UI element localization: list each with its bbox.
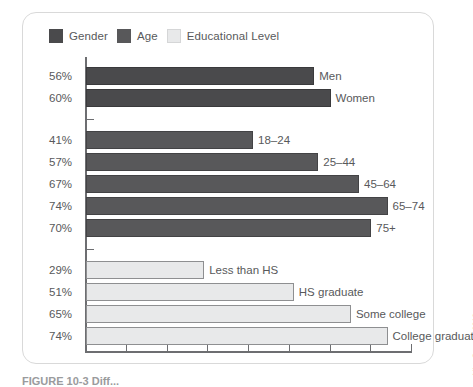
bar-value-label: 56% bbox=[49, 69, 81, 83]
bar-value-label: 41% bbox=[49, 133, 81, 147]
x-axis-tick bbox=[207, 344, 208, 353]
bar-value-label: 67% bbox=[49, 177, 81, 191]
bar-value-label: 60% bbox=[49, 91, 81, 105]
bar-category-label: 65–74 bbox=[393, 199, 425, 213]
bar-value-label: 74% bbox=[49, 329, 81, 343]
x-axis-tick bbox=[330, 344, 331, 353]
group-separator-tick bbox=[85, 249, 94, 250]
legend-label: Gender bbox=[69, 30, 108, 42]
bar-row: 74%College graduate bbox=[49, 327, 429, 345]
bar-row: 74%65–74 bbox=[49, 197, 429, 215]
bar-value-label: 29% bbox=[49, 263, 81, 277]
bar-category-label: Less than HS bbox=[209, 263, 278, 277]
legend-entry: Educational Level bbox=[167, 29, 280, 43]
x-axis-tick bbox=[85, 344, 86, 353]
bar-category-label: 25–44 bbox=[323, 155, 355, 169]
x-axis-tick bbox=[411, 344, 412, 353]
bar bbox=[86, 261, 204, 279]
legend-swatch-education bbox=[167, 29, 181, 43]
chart-plot-area: 56%Men60%Women41%18–2457%25–4467%45–6474… bbox=[49, 57, 429, 353]
bar-value-label: 51% bbox=[49, 285, 81, 299]
group-separator-tick bbox=[85, 119, 94, 120]
chart-legend: GenderAgeEducational Level bbox=[49, 29, 279, 43]
bar-category-label: College graduate bbox=[393, 329, 473, 343]
x-axis-tick bbox=[248, 344, 249, 353]
bar bbox=[86, 131, 253, 149]
legend-label: Age bbox=[137, 30, 158, 42]
legend-entry: Age bbox=[117, 29, 158, 43]
bar-category-label: 45–64 bbox=[364, 177, 396, 191]
bar-category-label: 75+ bbox=[376, 221, 396, 235]
figure-caption: FIGURE 10-3 Diff... bbox=[22, 375, 119, 387]
bar-row: 29%Less than HS bbox=[49, 261, 429, 279]
bar-row: 56%Men bbox=[49, 67, 429, 85]
bar-row: 70%75+ bbox=[49, 219, 429, 237]
bar bbox=[86, 89, 331, 107]
legend-label: Educational Level bbox=[187, 30, 280, 42]
bar bbox=[86, 153, 318, 171]
bar-value-label: 74% bbox=[49, 199, 81, 213]
x-axis-tick bbox=[167, 344, 168, 353]
figure-card: GenderAgeEducational Level 56%Men60%Wome… bbox=[22, 12, 434, 364]
bar bbox=[86, 67, 314, 85]
bar-category-label: Men bbox=[319, 69, 341, 83]
bar bbox=[86, 305, 351, 323]
bar-category-label: Some college bbox=[356, 307, 426, 321]
x-axis-tick bbox=[370, 344, 371, 353]
legend-swatch-gender bbox=[49, 29, 63, 43]
legend-swatch-age bbox=[117, 29, 131, 43]
bar-category-label: Women bbox=[336, 91, 375, 105]
bar-row: 57%25–44 bbox=[49, 153, 429, 171]
bar-category-label: HS graduate bbox=[299, 285, 364, 299]
x-axis-tick bbox=[289, 344, 290, 353]
bar-row: 67%45–64 bbox=[49, 175, 429, 193]
bar-row: 41%18–24 bbox=[49, 131, 429, 149]
bar bbox=[86, 283, 294, 301]
bar bbox=[86, 327, 388, 345]
bar bbox=[86, 175, 359, 193]
bar bbox=[86, 219, 371, 237]
bar-row: 60%Women bbox=[49, 89, 429, 107]
bar-row: 65%Some college bbox=[49, 305, 429, 323]
legend-entry: Gender bbox=[49, 29, 108, 43]
bar-value-label: 65% bbox=[49, 307, 81, 321]
x-axis-tick bbox=[126, 344, 127, 353]
bar-row: 51%HS graduate bbox=[49, 283, 429, 301]
bar-value-label: 57% bbox=[49, 155, 81, 169]
bar-value-label: 70% bbox=[49, 221, 81, 235]
bar bbox=[86, 197, 388, 215]
bar-category-label: 18–24 bbox=[258, 133, 290, 147]
